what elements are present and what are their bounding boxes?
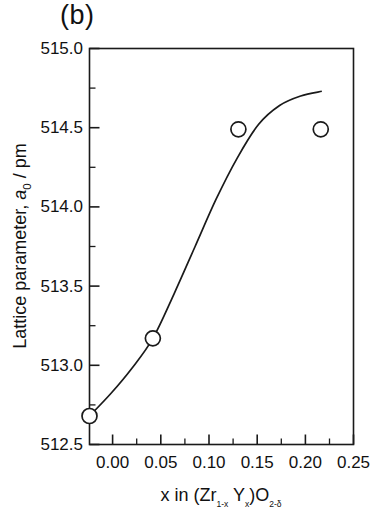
fit-curve bbox=[90, 91, 322, 416]
y-axis-minor-ticks bbox=[90, 88, 96, 405]
data-point-markers bbox=[82, 122, 328, 424]
x-axis-minor-ticks bbox=[137, 439, 330, 445]
x-tick-labels: 0.00 0.05 0.10 0.15 0.20 0.25 bbox=[96, 453, 370, 472]
x-tick-label: 0.20 bbox=[289, 453, 322, 472]
x-tick-label: 0.15 bbox=[241, 453, 274, 472]
x-axis-title-sub3: 2-δ bbox=[269, 499, 282, 509]
x-axis-title-close: )O bbox=[249, 485, 269, 505]
x-tick-label: 0.25 bbox=[337, 453, 370, 472]
figure-panel-b: (b) bbox=[0, 0, 375, 515]
y-tick-label: 513.0 bbox=[40, 356, 83, 375]
y-tick-label: 515.0 bbox=[40, 39, 83, 58]
data-point bbox=[313, 122, 328, 137]
x-axis-title-mid: Y bbox=[233, 485, 245, 505]
data-point bbox=[145, 331, 160, 346]
y-axis-title-lead: Lattice parameter, bbox=[10, 200, 30, 349]
y-axis-title-tail: / pm bbox=[10, 143, 30, 183]
data-point bbox=[231, 122, 246, 137]
x-axis-title: x in (Zr1-x Yx)O2-δ bbox=[160, 485, 281, 509]
x-tick-label: 0.00 bbox=[96, 453, 129, 472]
data-point bbox=[82, 408, 97, 423]
x-tick-label: 0.05 bbox=[144, 453, 177, 472]
y-axis-title-symbol: a bbox=[10, 190, 30, 200]
x-tick-label: 0.10 bbox=[192, 453, 225, 472]
x-axis-title-sub1: 1-x bbox=[216, 499, 229, 509]
y-tick-label: 514.5 bbox=[40, 118, 83, 137]
y-axis-title: Lattice parameter, a0 / pm bbox=[10, 143, 33, 349]
y-tick-label: 512.5 bbox=[40, 435, 83, 454]
y-tick-label: 514.0 bbox=[40, 197, 83, 216]
lattice-parameter-chart: 515.0 514.5 514.0 513.5 513.0 512.5 0.00… bbox=[0, 0, 375, 515]
y-tick-labels: 515.0 514.5 514.0 513.5 513.0 512.5 bbox=[40, 39, 83, 454]
x-axis-title-lead: x in (Zr bbox=[160, 485, 216, 505]
plot-frame bbox=[90, 49, 354, 445]
y-tick-label: 513.5 bbox=[40, 277, 83, 296]
